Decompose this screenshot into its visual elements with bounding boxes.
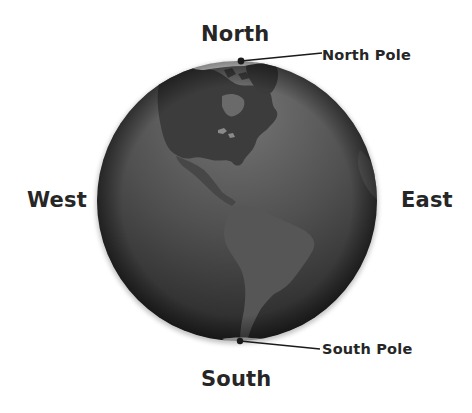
south-pole-label: South Pole xyxy=(322,341,412,357)
south-label: South xyxy=(201,367,272,391)
west-label: West xyxy=(27,188,87,212)
north-label: North xyxy=(201,22,269,46)
north-pole-pointer-line xyxy=(241,53,322,61)
north-pole-dot xyxy=(238,58,245,65)
south-pole-dot xyxy=(237,338,243,344)
south-pole-pointer-line xyxy=(240,341,320,349)
globe-rim-shade xyxy=(97,61,377,341)
north-pole-label: North Pole xyxy=(322,47,411,63)
east-label: East xyxy=(401,188,453,212)
